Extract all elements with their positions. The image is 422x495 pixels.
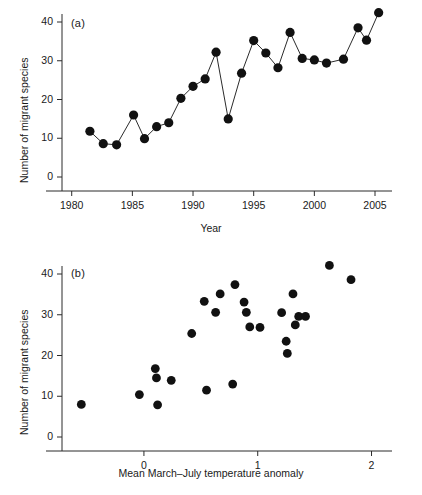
panel-b-y-tick-label: 10	[23, 389, 53, 401]
data-point	[211, 308, 220, 317]
panel-b-y-tick-label: 0	[23, 430, 53, 442]
panel-b-plot	[0, 245, 422, 495]
data-point	[277, 308, 286, 317]
data-point	[301, 312, 310, 321]
data-point	[322, 58, 331, 67]
panel-a-x-tick-label: 1985	[102, 199, 162, 211]
panel-b-scatter: (b) Number of migrant species Mean March…	[0, 245, 422, 495]
panel-b-x-tick-label: 0	[114, 459, 174, 471]
figure-migrant-species: (a) Number of migrant species Year 01020…	[0, 0, 422, 495]
data-point	[240, 298, 249, 307]
panel-b-y-axis-title: Number of migrant species	[18, 310, 30, 435]
data-point	[353, 23, 362, 32]
data-point	[216, 290, 225, 299]
data-point	[187, 329, 196, 338]
data-point	[153, 400, 162, 409]
data-point	[282, 337, 291, 346]
data-point	[291, 321, 300, 330]
panel-b-label: (b)	[71, 267, 85, 279]
data-point	[347, 275, 356, 284]
data-point	[224, 114, 233, 123]
panel-a-x-tick-label: 2005	[345, 199, 405, 211]
panel-a-y-tick-label: 20	[23, 93, 53, 105]
panel-b-y-tick-label: 30	[23, 308, 53, 320]
data-point	[112, 140, 121, 149]
panel-a-x-tick-label: 1980	[42, 199, 102, 211]
data-point	[140, 134, 149, 143]
panel-a-label: (a)	[71, 17, 85, 29]
panel-a-y-tick-label: 0	[23, 170, 53, 182]
data-point	[325, 261, 334, 270]
data-point	[228, 380, 237, 389]
panel-b-x-tick-label: 1	[228, 459, 288, 471]
data-point	[164, 118, 173, 127]
data-point	[99, 139, 108, 148]
data-point	[261, 48, 270, 57]
data-point	[176, 94, 185, 103]
panel-b-y-tick-label: 40	[23, 267, 53, 279]
panel-b-x-tick-label: 2	[342, 459, 402, 471]
data-point	[310, 55, 319, 64]
data-point	[129, 110, 138, 119]
data-point	[237, 69, 246, 78]
panel-b-y-tick-label: 20	[23, 349, 53, 361]
data-point	[256, 323, 265, 332]
data-point	[135, 390, 144, 399]
data-point	[285, 28, 294, 37]
data-point	[202, 386, 211, 395]
data-point	[289, 290, 298, 299]
data-point	[298, 54, 307, 63]
data-point	[374, 8, 383, 17]
panel-a-timeseries: (a) Number of migrant species Year 01020…	[0, 0, 422, 245]
data-point	[273, 63, 282, 72]
data-point	[188, 82, 197, 91]
panel-a-y-axis-title: Number of migrant species	[18, 58, 30, 183]
panel-a-y-tick-label: 30	[23, 54, 53, 66]
data-point	[200, 297, 209, 306]
data-point	[152, 374, 161, 383]
panel-a-x-tick-label: 1990	[163, 199, 223, 211]
data-point	[77, 400, 86, 409]
data-point	[283, 349, 292, 358]
data-point	[151, 364, 160, 373]
data-point	[85, 127, 94, 136]
data-point	[245, 323, 254, 332]
data-point	[201, 74, 210, 83]
panel-a-y-tick-label: 10	[23, 131, 53, 143]
data-point	[231, 280, 240, 289]
panel-a-x-axis-title: Year	[0, 222, 422, 234]
data-point	[362, 36, 371, 45]
data-point	[152, 122, 161, 131]
data-point	[249, 36, 258, 45]
data-point	[211, 48, 220, 57]
data-point	[339, 55, 348, 64]
panel-a-x-tick-label: 2000	[284, 199, 344, 211]
panel-a-x-tick-label: 1995	[224, 199, 284, 211]
data-point	[242, 308, 251, 317]
data-point	[167, 376, 176, 385]
panel-a-y-tick-label: 40	[23, 15, 53, 27]
